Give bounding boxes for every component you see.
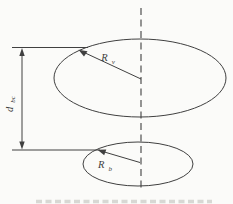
bottom-radius-label-base: R — [97, 159, 105, 170]
separation-dimension — [12, 48, 100, 151]
top-radius-label-base: R — [100, 52, 108, 63]
separation-label-base: d — [4, 106, 15, 112]
bottom-radius-label-sub: b — [108, 165, 112, 173]
dimension-arrowhead-up-icon — [19, 48, 24, 56]
separation-label: d bc — [0, 95, 17, 112]
top-radius-label-sub: v — [112, 58, 116, 66]
figure-diagram: R v R b d bc — [0, 0, 233, 204]
bottom-radius-label: R b — [97, 154, 112, 173]
figure-canvas: R v R b d bc — [0, 0, 233, 204]
separation-label-sub: bc — [9, 95, 17, 103]
top-radius-label: R v — [100, 47, 115, 66]
dimension-arrowhead-down-icon — [19, 142, 24, 150]
top-radius-arrowhead-icon — [79, 50, 88, 57]
